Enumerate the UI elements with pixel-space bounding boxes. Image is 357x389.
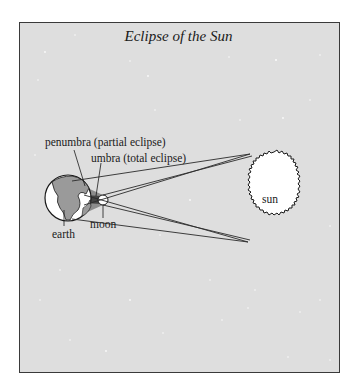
umbra-label: umbra (total eclipse) — [91, 152, 186, 164]
penumbra-label: penumbra (partial eclipse) — [45, 136, 166, 148]
earth-label: earth — [52, 228, 75, 240]
moon-label: moon — [90, 218, 116, 230]
sun-icon — [248, 150, 300, 215]
eclipse-diagram — [0, 0, 357, 389]
sun-label: sun — [262, 193, 278, 205]
page-title: Eclipse of the Sun — [0, 28, 357, 45]
